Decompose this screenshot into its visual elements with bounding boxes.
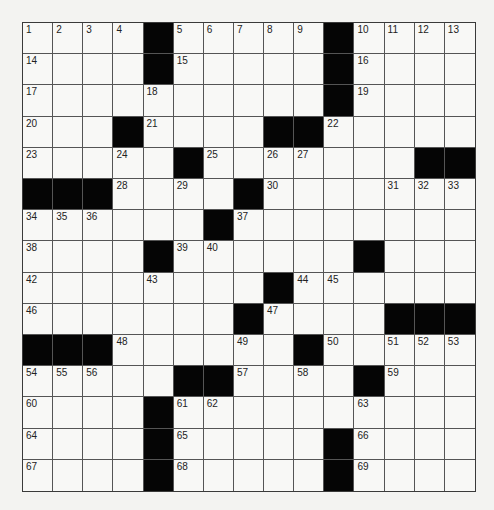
grid-cell[interactable] xyxy=(144,179,174,210)
grid-cell[interactable] xyxy=(385,460,415,491)
grid-cell[interactable]: 52 xyxy=(415,335,445,366)
grid-cell[interactable]: 2 xyxy=(53,23,83,54)
grid-cell[interactable] xyxy=(445,117,475,148)
grid-cell[interactable]: 46 xyxy=(23,304,53,335)
grid-cell[interactable] xyxy=(445,397,475,428)
grid-cell[interactable]: 45 xyxy=(324,273,354,304)
grid-cell[interactable]: 24 xyxy=(113,148,143,179)
grid-cell[interactable] xyxy=(324,179,354,210)
grid-cell[interactable] xyxy=(415,397,445,428)
grid-cell[interactable] xyxy=(294,460,324,491)
grid-cell[interactable] xyxy=(53,54,83,85)
grid-cell[interactable] xyxy=(264,241,294,272)
grid-cell[interactable] xyxy=(204,304,234,335)
grid-cell[interactable] xyxy=(113,85,143,116)
grid-cell[interactable]: 15 xyxy=(174,54,204,85)
grid-cell[interactable] xyxy=(354,179,384,210)
grid-cell[interactable]: 33 xyxy=(445,179,475,210)
grid-cell[interactable]: 22 xyxy=(324,117,354,148)
grid-cell[interactable]: 9 xyxy=(294,23,324,54)
grid-cell[interactable] xyxy=(204,429,234,460)
grid-cell[interactable] xyxy=(294,54,324,85)
grid-cell[interactable] xyxy=(385,54,415,85)
grid-cell[interactable] xyxy=(113,210,143,241)
grid-cell[interactable]: 69 xyxy=(354,460,384,491)
grid-cell[interactable] xyxy=(264,460,294,491)
grid-cell[interactable]: 47 xyxy=(264,304,294,335)
grid-cell[interactable]: 51 xyxy=(385,335,415,366)
grid-cell[interactable] xyxy=(234,429,264,460)
grid-cell[interactable] xyxy=(204,273,234,304)
grid-cell[interactable] xyxy=(144,366,174,397)
grid-cell[interactable] xyxy=(113,366,143,397)
grid-cell[interactable] xyxy=(415,210,445,241)
grid-cell[interactable] xyxy=(113,304,143,335)
grid-cell[interactable]: 61 xyxy=(174,397,204,428)
grid-cell[interactable] xyxy=(53,429,83,460)
grid-cell[interactable]: 44 xyxy=(294,273,324,304)
grid-cell[interactable]: 18 xyxy=(144,85,174,116)
grid-cell[interactable] xyxy=(354,335,384,366)
grid-cell[interactable]: 17 xyxy=(23,85,53,116)
grid-cell[interactable] xyxy=(113,54,143,85)
grid-cell[interactable] xyxy=(415,366,445,397)
grid-cell[interactable]: 39 xyxy=(174,241,204,272)
grid-cell[interactable] xyxy=(264,54,294,85)
grid-cell[interactable]: 59 xyxy=(385,366,415,397)
grid-cell[interactable] xyxy=(234,273,264,304)
grid-cell[interactable]: 6 xyxy=(204,23,234,54)
grid-cell[interactable]: 29 xyxy=(174,179,204,210)
grid-cell[interactable] xyxy=(294,241,324,272)
grid-cell[interactable] xyxy=(234,460,264,491)
grid-cell[interactable]: 56 xyxy=(83,366,113,397)
grid-cell[interactable] xyxy=(204,85,234,116)
grid-cell[interactable] xyxy=(113,429,143,460)
grid-cell[interactable] xyxy=(385,397,415,428)
grid-cell[interactable] xyxy=(445,241,475,272)
grid-cell[interactable] xyxy=(174,304,204,335)
grid-cell[interactable]: 20 xyxy=(23,117,53,148)
grid-cell[interactable] xyxy=(294,397,324,428)
grid-cell[interactable] xyxy=(324,148,354,179)
grid-cell[interactable] xyxy=(354,210,384,241)
grid-cell[interactable] xyxy=(294,304,324,335)
grid-cell[interactable]: 49 xyxy=(234,335,264,366)
grid-cell[interactable]: 38 xyxy=(23,241,53,272)
grid-cell[interactable] xyxy=(445,210,475,241)
grid-cell[interactable] xyxy=(354,304,384,335)
grid-cell[interactable] xyxy=(415,273,445,304)
grid-cell[interactable] xyxy=(385,429,415,460)
grid-cell[interactable]: 27 xyxy=(294,148,324,179)
grid-cell[interactable] xyxy=(144,335,174,366)
grid-cell[interactable]: 13 xyxy=(445,23,475,54)
grid-cell[interactable] xyxy=(324,241,354,272)
grid-cell[interactable] xyxy=(445,460,475,491)
grid-cell[interactable]: 36 xyxy=(83,210,113,241)
grid-cell[interactable] xyxy=(204,179,234,210)
grid-cell[interactable] xyxy=(294,210,324,241)
grid-cell[interactable] xyxy=(144,148,174,179)
grid-cell[interactable] xyxy=(234,117,264,148)
grid-cell[interactable] xyxy=(113,241,143,272)
grid-cell[interactable] xyxy=(83,273,113,304)
grid-cell[interactable] xyxy=(354,117,384,148)
grid-cell[interactable] xyxy=(385,273,415,304)
grid-cell[interactable] xyxy=(83,148,113,179)
grid-cell[interactable] xyxy=(204,117,234,148)
grid-cell[interactable] xyxy=(83,460,113,491)
grid-cell[interactable]: 55 xyxy=(53,366,83,397)
grid-cell[interactable] xyxy=(83,241,113,272)
grid-cell[interactable]: 21 xyxy=(144,117,174,148)
grid-cell[interactable] xyxy=(83,429,113,460)
grid-cell[interactable] xyxy=(53,148,83,179)
grid-cell[interactable]: 14 xyxy=(23,54,53,85)
grid-cell[interactable] xyxy=(174,273,204,304)
grid-cell[interactable] xyxy=(324,397,354,428)
grid-cell[interactable]: 16 xyxy=(354,54,384,85)
grid-cell[interactable]: 40 xyxy=(204,241,234,272)
grid-cell[interactable]: 3 xyxy=(83,23,113,54)
grid-cell[interactable]: 53 xyxy=(445,335,475,366)
grid-cell[interactable] xyxy=(324,210,354,241)
grid-cell[interactable] xyxy=(324,366,354,397)
grid-cell[interactable]: 64 xyxy=(23,429,53,460)
